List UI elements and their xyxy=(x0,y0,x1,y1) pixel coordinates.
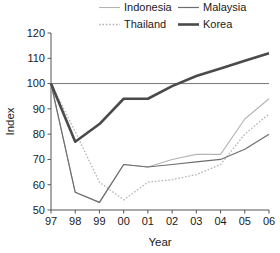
data-series xyxy=(51,53,269,202)
y-tick-label: 50 xyxy=(33,204,45,216)
y-tick-label: 100 xyxy=(27,77,45,89)
chart-axes xyxy=(48,33,270,214)
legend-label-malaysia: Malaysia xyxy=(203,1,247,13)
y-axis-title: Index xyxy=(4,107,16,135)
legend-entry-malaysia[interactable]: Malaysia xyxy=(178,1,247,13)
y-tick-label: 110 xyxy=(27,52,45,64)
y-tick-label: 60 xyxy=(33,179,45,191)
legend-entry-korea[interactable]: Korea xyxy=(178,18,233,30)
x-tick-label: 98 xyxy=(69,215,81,227)
chart-container: IndonesiaMalaysiaThailandKorea 506070809… xyxy=(0,0,280,253)
x-tick-label: 06 xyxy=(263,215,275,227)
y-tick-label: 120 xyxy=(27,27,45,39)
chart-legend: IndonesiaMalaysiaThailandKorea xyxy=(99,1,247,30)
x-tick-label: 02 xyxy=(166,215,178,227)
series-line-malaysia xyxy=(51,84,269,203)
y-tick-label: 70 xyxy=(33,153,45,165)
y-axis-tick-labels: 5060708090100110120 xyxy=(27,27,45,216)
legend-label-korea: Korea xyxy=(203,18,233,30)
x-tick-label: 04 xyxy=(214,215,226,227)
legend-label-indonesia: Indonesia xyxy=(124,1,173,13)
y-tick-label: 80 xyxy=(33,128,45,140)
x-tick-label: 97 xyxy=(45,215,57,227)
x-axis-title: Year xyxy=(148,236,171,248)
legend-entry-thailand[interactable]: Thailand xyxy=(99,18,166,30)
series-line-korea xyxy=(51,53,269,142)
series-line-indonesia xyxy=(51,84,269,203)
legend-entry-indonesia[interactable]: Indonesia xyxy=(99,1,173,13)
line-chart: IndonesiaMalaysiaThailandKorea 506070809… xyxy=(0,0,280,253)
x-tick-label: 03 xyxy=(190,215,202,227)
series-line-thailand xyxy=(51,84,269,200)
x-tick-label: 01 xyxy=(142,215,154,227)
y-tick-label: 90 xyxy=(33,103,45,115)
x-tick-label: 05 xyxy=(239,215,251,227)
x-axis-tick-labels: 97989900010203040506 xyxy=(45,215,275,227)
x-tick-label: 00 xyxy=(118,215,130,227)
legend-label-thailand: Thailand xyxy=(124,18,166,30)
x-tick-label: 99 xyxy=(93,215,105,227)
